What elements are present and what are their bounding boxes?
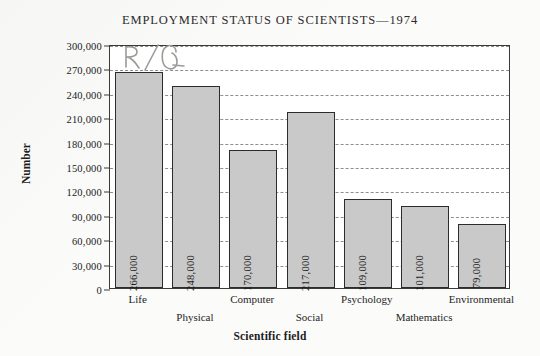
y-axis-tick-label: 150,000 <box>66 163 102 174</box>
y-axis-tick-label: 300,000 <box>66 41 102 52</box>
y-axis-tick-label: 270,000 <box>66 65 102 76</box>
y-axis-tick-mark <box>104 46 110 47</box>
y-axis-tick-mark <box>104 216 110 217</box>
plot-area: 030,00060,00090,000120,000150,000180,000… <box>109 45 510 289</box>
bar-value-label: 217,000 <box>300 255 311 291</box>
x-axis-label-social: Social <box>296 311 324 323</box>
bar-physical[interactable]: 248,000 <box>172 86 220 288</box>
x-axis-label-mathematics: Mathematics <box>396 311 453 323</box>
x-axis-label-psychology: Psychology <box>341 293 392 305</box>
y-axis-tick-label: 60,000 <box>72 236 102 247</box>
bar-psychology[interactable]: 109,000 <box>344 199 392 288</box>
y-axis-tick-mark <box>104 94 110 95</box>
bar-value-label: 79,000 <box>471 258 482 289</box>
x-axis-label-life: Life <box>128 293 146 305</box>
chart-title: EMPLOYMENT STATUS OF SCIENTISTS—1974 <box>0 13 540 28</box>
bar-mathematics[interactable]: 101,000 <box>401 206 449 288</box>
bar-life[interactable]: 266,000 <box>115 72 163 288</box>
gridline <box>110 46 509 47</box>
y-axis-tick-label: 0 <box>97 285 102 296</box>
gridline <box>110 70 509 71</box>
x-axis-title: Scientific field <box>0 330 540 342</box>
x-axis-label-environmental: Environmental <box>449 293 514 305</box>
y-axis-tick-mark <box>104 265 110 266</box>
bar-social[interactable]: 217,000 <box>287 112 335 288</box>
x-axis-label-computer: Computer <box>230 293 274 305</box>
y-axis-tick-label: 210,000 <box>66 114 102 125</box>
y-axis-tick-mark <box>104 192 110 193</box>
y-axis-title: Number <box>20 160 32 184</box>
x-axis-label-physical: Physical <box>176 311 213 323</box>
bar-value-label: 248,000 <box>185 255 196 291</box>
gridline <box>110 95 509 96</box>
bar-environmental[interactable]: 79,000 <box>458 224 506 288</box>
y-axis-tick-mark <box>104 168 110 169</box>
y-axis-tick-mark <box>104 70 110 71</box>
y-axis-tick-label: 180,000 <box>66 138 102 149</box>
y-axis-tick-label: 240,000 <box>66 89 102 100</box>
y-axis-tick-label: 120,000 <box>66 187 102 198</box>
bar-value-label: 170,000 <box>242 255 253 291</box>
bar-value-label: 109,000 <box>357 255 368 291</box>
y-axis-tick-label: 90,000 <box>72 211 102 222</box>
y-axis-tick-label: 30,000 <box>72 260 102 271</box>
y-axis-tick-mark <box>104 241 110 242</box>
y-axis-tick-mark <box>104 119 110 120</box>
bar-computer[interactable]: 170,000 <box>229 150 277 288</box>
bar-value-label: 266,000 <box>128 255 139 291</box>
y-axis-tick-mark <box>104 143 110 144</box>
bar-value-label: 101,000 <box>414 255 425 291</box>
y-axis-tick-mark <box>104 290 110 291</box>
